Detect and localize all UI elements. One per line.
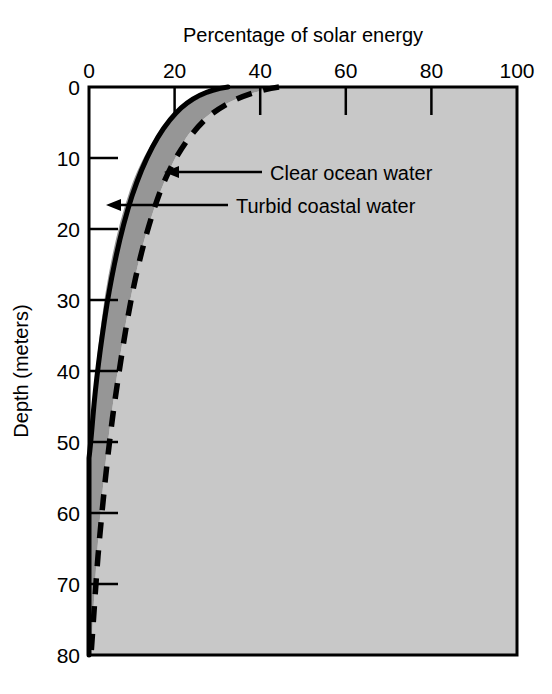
x-tick-label-40: 40 [249, 59, 272, 82]
y-tick-label-40: 40 [57, 360, 80, 383]
y-tick-label-80: 80 [57, 644, 80, 667]
y-axis-title: Depth (meters) [10, 304, 32, 437]
y-tick-label-10: 10 [57, 147, 80, 170]
y-tick-label-50: 50 [57, 431, 80, 454]
x-tick-label-80: 80 [420, 59, 443, 82]
x-tick-label-100: 100 [499, 59, 534, 82]
y-tick-label-20: 20 [57, 218, 80, 241]
x-axis-title: Percentage of solar energy [183, 24, 423, 46]
turbid-coastal-water-label: Turbid coastal water [236, 195, 416, 217]
y-tick-label-30: 30 [57, 289, 80, 312]
y-tick-label-0: 0 [68, 76, 80, 99]
y-tick-label-60: 60 [57, 502, 80, 525]
solar-energy-depth-chart: 0 20 40 60 80 100 0 10 20 30 40 50 60 70… [0, 0, 552, 694]
x-tick-label-20: 20 [163, 59, 186, 82]
clear-ocean-water-label: Clear ocean water [270, 162, 433, 184]
x-tick-label-60: 60 [334, 59, 357, 82]
x-tick-label-0: 0 [83, 59, 95, 82]
chart-svg: 0 20 40 60 80 100 0 10 20 30 40 50 60 70… [0, 0, 552, 694]
y-tick-label-70: 70 [57, 573, 80, 596]
